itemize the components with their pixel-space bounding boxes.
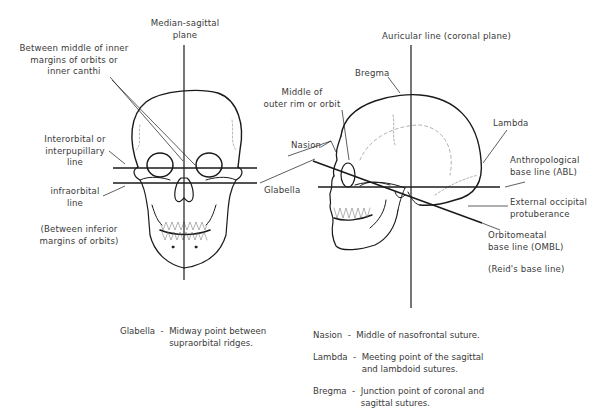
label-reid: (Reid's base line) (488, 264, 564, 276)
label-infraorbital: infraorbital line (46, 186, 104, 209)
def-term-nasion: Nasion - (313, 329, 356, 341)
def-term-bregma: Bregma - (313, 385, 361, 409)
def-text-glabella: Midway point between supraorbital ridges… (169, 325, 266, 349)
label-inner-canthi: Between middle of inner margins of orbit… (14, 43, 134, 78)
label-interorbital: Interorbital or interpupillary line (36, 134, 114, 169)
definition-lambda: Lambda - Meeting point of the sagittal a… (313, 351, 484, 375)
label-infraorbital-note: (Between inferior margins of orbits) (36, 224, 122, 247)
def-text-nasion: Middle of nasofrontal suture. (356, 329, 480, 341)
label-glabella: Glabella (264, 185, 300, 197)
label-median-sagittal: Median-sagittal plane (145, 18, 225, 41)
frontal-reference-lines (103, 45, 257, 280)
def-term-lambda: Lambda - (313, 351, 362, 375)
def-text-lambda: Meeting point of the sagittal and lambdo… (362, 351, 484, 375)
label-lambda: Lambda (493, 118, 529, 130)
label-ombl: Orbitomeatal base line (OMBL) (488, 230, 563, 253)
def-term-glabella: Glabella - (120, 325, 169, 349)
def-text-bregma: Junction point of coronal and sagittal s… (361, 385, 485, 409)
label-nasion: Nasion (291, 140, 321, 152)
label-outer-rim-orbit: Middle of outer rim or orbit (262, 87, 342, 110)
label-auricular-line: Auricular line (coronal plane) (382, 31, 511, 43)
lateral-skull (330, 95, 482, 250)
definition-glabella: Glabella - Midway point between supraorb… (120, 325, 266, 359)
label-external-occipital: External occipital protuberance (510, 197, 587, 220)
definitions-lateral: Nasion - Middle of nasofrontal suture. L… (313, 329, 484, 417)
label-abl: Anthropological base line (ABL) (510, 155, 580, 178)
definition-nasion: Nasion - Middle of nasofrontal suture. (313, 329, 484, 341)
definition-bregma: Bregma - Junction point of coronal and s… (313, 385, 484, 409)
label-bregma: Bregma (355, 68, 390, 80)
lateral-reference-lines (260, 45, 525, 308)
